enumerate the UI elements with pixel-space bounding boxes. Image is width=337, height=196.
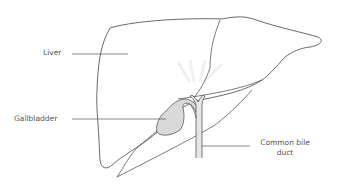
gallbladder-label: Gallbladder xyxy=(14,114,57,124)
common-bile-duct-label: Common bile duct xyxy=(254,138,316,158)
liver-label: Liver xyxy=(43,48,61,58)
liver-diagram xyxy=(0,0,337,196)
falciform-line xyxy=(194,20,220,98)
gallbladder-shape xyxy=(157,99,200,135)
watermark xyxy=(178,60,222,82)
common-bile-duct-label-line2: duct xyxy=(254,148,316,158)
common-bile-duct-label-line1: Common bile xyxy=(254,138,316,148)
